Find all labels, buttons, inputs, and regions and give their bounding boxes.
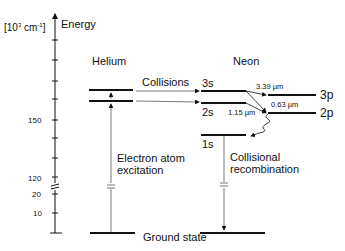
collision-arrows	[136, 91, 199, 102]
tick-label-120: 120	[28, 174, 42, 183]
collisions-label: Collisions	[142, 76, 190, 88]
transition-0-63um: 0.63 µm	[271, 100, 298, 109]
axis-title: Energy	[61, 18, 96, 30]
tick-label-20: 20	[32, 190, 41, 199]
level-2s: 2s	[202, 106, 214, 118]
level-3s: 3s	[202, 77, 214, 89]
recombination-label-1: Collisional	[230, 151, 280, 163]
tick-label-150: 150	[28, 116, 42, 125]
helium-excitation-arrow	[107, 93, 115, 232]
energy-level-diagram: [103 cm-1] Energy 150 120 20 10 Helium E…	[0, 0, 345, 251]
energy-axis	[50, 14, 62, 233]
excitation-label-1: Electron atom	[117, 152, 185, 164]
transition-3-39um: 3.39 µm	[256, 82, 283, 91]
level-2p: 2p	[320, 106, 334, 120]
axis-unit-label: [103 cm-1]	[4, 22, 46, 33]
neon-title: Neon	[233, 55, 259, 67]
level-3p: 3p	[320, 88, 334, 102]
ground-state-label: Ground state	[143, 231, 207, 243]
recombination-label-2: recombination	[230, 163, 299, 175]
level-1s: 1s	[202, 138, 214, 150]
transition-1-15um: 1.15 µm	[228, 108, 255, 117]
helium-title: Helium	[92, 55, 126, 67]
excitation-label-2: excitation	[117, 164, 163, 176]
tick-label-10: 10	[33, 209, 42, 218]
recombination-arrow	[220, 136, 228, 230]
